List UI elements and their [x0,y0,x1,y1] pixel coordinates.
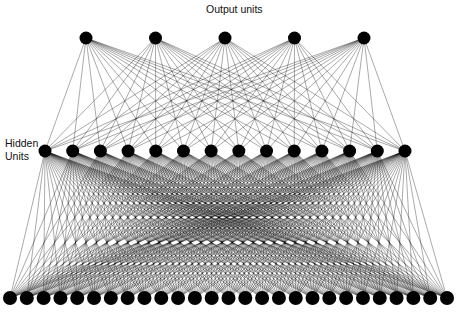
hidden-node [343,145,356,158]
input-node [322,291,336,305]
input-node [406,291,420,305]
connection-edge [295,38,406,151]
connection-edge [100,38,225,151]
connection-edge [183,38,294,151]
hidden-node [39,145,52,158]
connection-edges [10,38,447,298]
output-node [219,32,232,45]
input-node [440,291,454,305]
connection-edge [267,38,364,151]
hidden-node [66,145,79,158]
connection-edge [156,38,225,151]
connection-edge [45,38,295,151]
output-node [288,32,301,45]
input-node [272,291,286,305]
connection-edge [45,38,225,151]
input-node [53,291,67,305]
hidden-node [399,145,412,158]
connection-edge [405,151,430,298]
connection-edge [156,38,364,151]
connection-edge [111,151,156,298]
input-node [373,291,387,305]
connection-edge [267,38,295,151]
input-node [255,291,269,305]
hidden-node [288,145,301,158]
connection-edge [73,38,156,151]
neural-network-diagram [0,0,458,319]
connection-edge [128,38,294,151]
input-node [222,291,236,305]
hidden-node [149,145,162,158]
input-node [423,291,437,305]
input-node [121,291,135,305]
connection-edge [211,38,294,151]
connection-edge [45,38,86,151]
input-node [3,291,17,305]
input-node [289,291,303,305]
connection-edge [73,38,295,151]
connection-edge [100,38,364,151]
connection-edge [128,38,364,151]
connection-edge [128,38,155,151]
connection-edge [86,38,405,151]
hidden-node [122,145,135,158]
connection-edge [45,38,156,151]
hidden-units-label: Hidden Units [5,137,38,163]
hidden-node [260,145,273,158]
connection-edge [364,38,377,151]
connection-edge [295,38,322,151]
input-node [306,291,320,305]
input-node [137,291,151,305]
connection-edge [27,151,378,298]
input-node [37,291,51,305]
hidden-label-line1: Hidden [5,137,38,150]
connection-edge [156,38,406,151]
output-node [80,32,93,45]
hidden-node [315,145,328,158]
input-node [238,291,252,305]
connection-edge [86,38,294,151]
hidden-node [177,145,190,158]
input-node [154,291,168,305]
input-node [205,291,219,305]
hidden-label-line2: Units [5,150,38,163]
hidden-node [371,145,384,158]
input-node [171,291,185,305]
output-node [149,32,162,45]
output-node [358,32,371,45]
input-node [390,291,404,305]
input-node [70,291,84,305]
connection-edge [156,38,378,151]
connection-edge [10,151,73,298]
input-node [188,291,202,305]
connection-edge [73,38,86,151]
hidden-node [94,145,107,158]
input-node [104,291,118,305]
connection-edge [295,38,378,151]
connection-edge [211,38,364,151]
connection-edge [364,38,405,151]
hidden-node [205,145,218,158]
connection-edge [73,38,225,151]
output-units-label: Output units [206,3,263,16]
input-node [339,291,353,305]
input-node [20,291,34,305]
hidden-node [232,145,245,158]
input-node [87,291,101,305]
input-node [356,291,370,305]
connection-edge [45,38,364,151]
